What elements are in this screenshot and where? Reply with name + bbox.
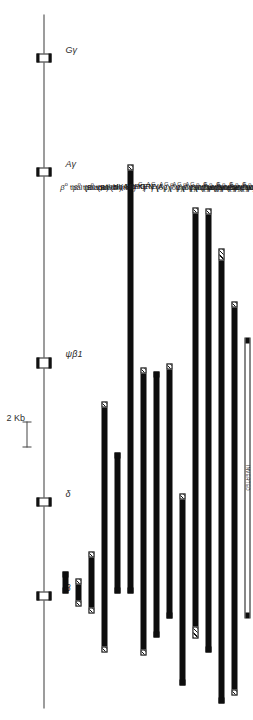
deletion-bar-ggag-db-japanese[interactable]	[153, 371, 159, 637]
bar-end-left-hatched	[75, 578, 81, 584]
bar-end-right-hatched	[75, 600, 81, 606]
bar-end-right-hatched	[192, 626, 198, 638]
bar-end-right-hatched	[88, 607, 94, 613]
deletion-bar-beta0-thal-black-1[interactable]	[62, 571, 68, 593]
deletion-bar-ggag-db-sicilian[interactable]	[140, 367, 146, 655]
deletion-bar-hb-kenya[interactable]	[127, 164, 133, 593]
gene-label-g-gamma: Gγ	[65, 44, 77, 54]
bar-end-left-solid	[114, 452, 120, 458]
bar-end-right-solid	[153, 631, 159, 637]
globin-deletion-map-figure: Gγ Aγ ψβ1 δ β 2 Kb	[0, 0, 253, 720]
bar-end-right-solid	[127, 587, 133, 593]
bar-end-right-hatched	[140, 649, 146, 655]
bar-end-left-hatched	[179, 493, 185, 499]
deletion-bar-gg-agdb-turkish[interactable]	[192, 207, 198, 638]
bar-end-left-solid	[62, 571, 68, 577]
gene-marker-beta	[36, 591, 51, 600]
bar-end-left-solid	[245, 337, 249, 343]
deletion-bar-gg-agdb-black[interactable]	[231, 301, 237, 695]
bar-end-left-hatched	[127, 164, 133, 170]
bar-end-right-solid	[245, 612, 249, 618]
bar-end-right-solid	[114, 587, 120, 593]
bar-end-right-hatched	[101, 646, 107, 652]
bar-end-right-solid	[179, 679, 185, 685]
scale-bar-label: 2 Kb	[6, 412, 25, 422]
deletion-bar-gg-agdb-malaysian[interactable]	[205, 208, 211, 652]
deletion-bar-gg-agdb-indian[interactable]: INVERTED	[244, 337, 250, 618]
deletion-bar-beta0-thal-dutch[interactable]	[88, 551, 94, 613]
bar-end-left-hatched	[101, 401, 107, 407]
bar-end-left-hatched	[205, 208, 211, 214]
gene-label-psi-beta1: ψβ1	[65, 348, 82, 358]
bar-end-left-hatched	[218, 248, 224, 260]
bar-end-left-hatched	[231, 301, 237, 307]
deletion-bar-gamma-thal-asian[interactable]	[101, 401, 107, 652]
bar-end-right-solid	[166, 612, 172, 618]
gene-marker-g-gamma	[36, 53, 51, 62]
bar-end-right-solid	[218, 697, 224, 703]
scale-bar	[26, 421, 27, 447]
bar-end-left-hatched	[140, 367, 146, 373]
sample-label-14: Gγ (Aγδβ)o thal (Indian)	[242, 181, 253, 192]
bar-end-left-solid	[153, 371, 159, 377]
gene-label-a-gamma: Aγ	[65, 158, 76, 168]
deletion-bar-ggag-db-greek[interactable]	[179, 493, 185, 685]
bar-end-right-hatched	[231, 689, 237, 695]
bar-end-left-hatched	[166, 363, 172, 369]
deletion-bar-hb-lepore[interactable]	[114, 452, 120, 593]
bar-end-left-hatched	[88, 551, 94, 557]
deletion-bar-gg-agdb-german[interactable]	[218, 248, 224, 703]
gene-marker-psi-beta1	[36, 357, 51, 368]
inverted-segment-label: INVERTED	[245, 465, 250, 491]
gene-marker-a-gamma	[36, 167, 51, 176]
deletion-bar-ggag-db-black[interactable]	[166, 363, 172, 618]
bar-end-right-solid	[205, 646, 211, 652]
bar-end-right-solid	[62, 587, 68, 593]
gene-label-delta: δ	[65, 488, 70, 498]
figure-canvas: Gγ Aγ ψβ1 δ β 2 Kb	[0, 0, 253, 720]
gene-marker-delta	[36, 497, 51, 506]
deletion-bar-beta0-thal-black-2[interactable]	[75, 578, 81, 606]
bar-end-left-hatched	[192, 207, 198, 213]
